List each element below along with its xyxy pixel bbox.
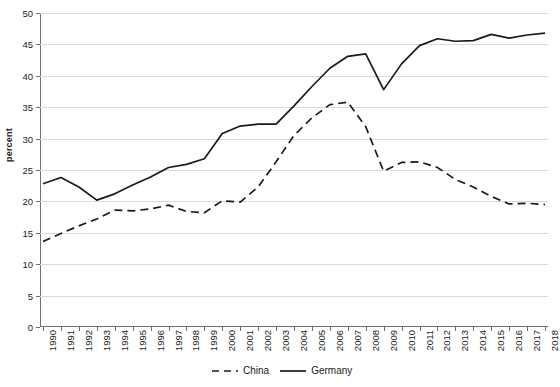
x-tick-mark (61, 327, 62, 331)
x-tick-label: 1993 (101, 330, 112, 351)
x-tick-mark (491, 327, 492, 331)
x-tick-label: 2006 (334, 330, 345, 351)
y-tick-label: 30 (22, 133, 33, 144)
x-tick-label: 2004 (298, 330, 309, 351)
x-tick-label: 2011 (424, 330, 435, 350)
x-tick-mark (330, 327, 331, 331)
x-tick-label: 1996 (155, 330, 166, 351)
x-tick-mark (312, 327, 313, 331)
y-tick-label: 45 (22, 39, 33, 50)
x-tick-label: 2017 (531, 330, 542, 351)
x-tick-mark (348, 327, 349, 331)
x-tick-label: 1995 (137, 330, 148, 351)
x-tick-mark (133, 327, 134, 331)
x-tick-label: 1998 (190, 330, 201, 351)
x-tick-mark (43, 327, 44, 331)
legend-item-china[interactable]: China (212, 366, 269, 376)
legend-item-germany[interactable]: Germany (280, 366, 352, 376)
x-tick-mark (169, 327, 170, 331)
x-tick-mark (402, 327, 403, 331)
legend-swatch-china (212, 367, 238, 375)
line-chart: percent 05101520253035404550 19901991199… (0, 0, 560, 387)
x-tick-label: 1991 (65, 330, 76, 351)
y-tick-label: 40 (22, 70, 33, 81)
x-tick-label: 2018 (549, 330, 560, 351)
x-tick-mark (97, 327, 98, 331)
series-line-china (43, 102, 545, 241)
y-tick-label: 15 (22, 227, 33, 238)
x-tick-label: 2002 (262, 330, 273, 351)
x-tick-mark (473, 327, 474, 331)
legend-label: China (243, 366, 269, 376)
x-tick-label: 2001 (244, 330, 255, 351)
x-tick-mark (384, 327, 385, 331)
y-tick-mark (36, 327, 40, 328)
x-tick-mark (258, 327, 259, 331)
x-tick-mark (79, 327, 80, 331)
x-tick-mark (276, 327, 277, 331)
y-tick-label: 20 (22, 196, 33, 207)
x-tick-mark (420, 327, 421, 331)
x-tick-mark (186, 327, 187, 331)
series-layer (40, 13, 548, 327)
y-tick-label: 50 (22, 8, 33, 19)
x-tick-mark (294, 327, 295, 331)
x-tick-label: 2000 (226, 330, 237, 351)
x-tick-label: 1997 (173, 330, 184, 351)
x-tick-mark (366, 327, 367, 331)
x-tick-mark (545, 327, 546, 331)
x-tick-label: 1992 (83, 330, 94, 351)
x-tick-mark (455, 327, 456, 331)
x-tick-mark (240, 327, 241, 331)
x-tick-label: 2003 (280, 330, 291, 351)
x-tick-label: 2015 (495, 330, 506, 351)
x-tick-mark (527, 327, 528, 331)
y-tick-label: 5 (28, 290, 33, 301)
x-tick-label: 2009 (388, 330, 399, 351)
x-tick-label: 2007 (352, 330, 363, 351)
y-tick-label: 35 (22, 102, 33, 113)
y-tick-label: 0 (28, 322, 33, 333)
x-tick-label: 2016 (513, 330, 524, 351)
x-tick-label: 2005 (316, 330, 327, 351)
x-tick-mark (509, 327, 510, 331)
x-tick-label: 2012 (441, 330, 452, 351)
x-tick-label: 1999 (208, 330, 219, 351)
x-tick-mark (204, 327, 205, 331)
x-tick-label: 2010 (406, 330, 417, 351)
x-tick-mark (222, 327, 223, 331)
x-tick-label: 2013 (459, 330, 470, 351)
x-tick-mark (437, 327, 438, 331)
x-tick-mark (151, 327, 152, 331)
legend-label: Germany (311, 366, 352, 376)
plot-area: 05101520253035404550 1990199119921993199… (40, 13, 548, 327)
x-tick-label: 2008 (370, 330, 381, 351)
y-tick-label: 25 (22, 165, 33, 176)
y-axis-title: percent (4, 148, 14, 162)
x-tick-label: 1990 (47, 330, 58, 351)
x-tick-label: 2014 (477, 330, 488, 351)
series-line-germany (43, 33, 545, 200)
y-tick-label: 10 (22, 259, 33, 270)
x-tick-label: 1994 (119, 330, 130, 351)
legend-swatch-germany (280, 367, 306, 375)
x-tick-mark (115, 327, 116, 331)
